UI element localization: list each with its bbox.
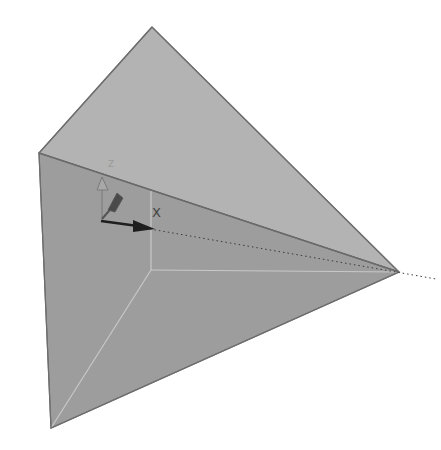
z-axis-label: Z bbox=[108, 159, 114, 169]
x-axis-label: X bbox=[152, 205, 161, 220]
3d-viewport[interactable]: X Z bbox=[0, 0, 441, 450]
